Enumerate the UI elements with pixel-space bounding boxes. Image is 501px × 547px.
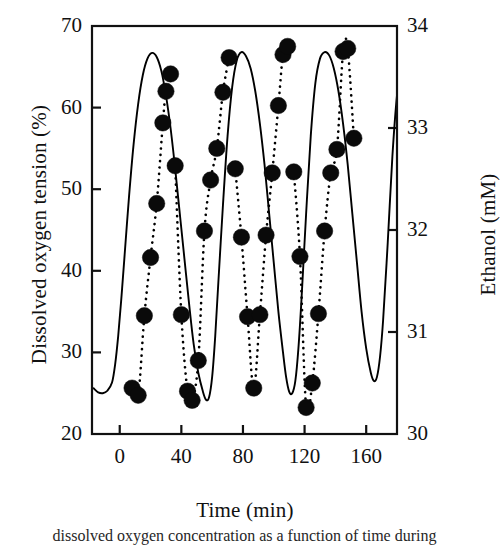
ethanol-marker bbox=[323, 165, 339, 181]
ethanol-marker bbox=[252, 306, 268, 322]
ethanol-marker bbox=[167, 158, 183, 174]
ethanol-marker bbox=[316, 223, 332, 239]
ethanol-marker bbox=[329, 141, 345, 157]
x-tick-label: 80 bbox=[213, 444, 273, 469]
ethanol-marker bbox=[298, 399, 314, 415]
y-tick-label-left: 40 bbox=[26, 258, 82, 283]
x-tick-label: 40 bbox=[151, 444, 211, 469]
ethanol-data-markers bbox=[124, 38, 362, 415]
ethanol-marker bbox=[162, 66, 178, 82]
y-tick-label-right: 33 bbox=[407, 115, 463, 140]
ethanol-marker bbox=[130, 387, 146, 403]
ethanol-marker bbox=[227, 161, 243, 177]
x-axis-title: Time (min) bbox=[92, 498, 398, 523]
ethanol-marker bbox=[136, 307, 152, 323]
y-tick-label-right: 30 bbox=[407, 421, 463, 446]
y-tick-label-left: 50 bbox=[26, 176, 82, 201]
x-tick-label: 120 bbox=[275, 444, 335, 469]
ethanol-marker bbox=[190, 352, 206, 368]
ethanol-marker bbox=[246, 380, 262, 396]
x-tick-label: 0 bbox=[90, 444, 150, 469]
y-tick-label-left: 30 bbox=[26, 339, 82, 364]
ethanol-marker bbox=[270, 97, 286, 113]
ethanol-marker bbox=[196, 223, 212, 239]
y-tick-label-left: 70 bbox=[26, 13, 82, 38]
y-tick-label-left: 20 bbox=[26, 421, 82, 446]
ethanol-marker bbox=[155, 115, 171, 131]
ethanol-marker bbox=[346, 130, 362, 146]
y-tick-label-left: 60 bbox=[26, 95, 82, 120]
ethanol-marker bbox=[158, 83, 174, 99]
y-tick-label-right: 32 bbox=[407, 217, 463, 242]
ethanol-marker bbox=[149, 195, 165, 211]
ethanol-marker bbox=[340, 40, 356, 56]
ethanol-marker bbox=[279, 38, 295, 54]
ethanol-marker bbox=[142, 249, 158, 265]
y-tick-label-right: 34 bbox=[407, 13, 463, 38]
ethanol-marker bbox=[304, 375, 320, 391]
ethanol-marker bbox=[310, 305, 326, 321]
ethanol-marker bbox=[258, 227, 274, 243]
ethanol-marker bbox=[215, 84, 231, 100]
ethanol-marker bbox=[184, 392, 200, 408]
ethanol-marker bbox=[286, 164, 302, 180]
x-tick-label: 160 bbox=[336, 444, 396, 469]
ethanol-marker bbox=[221, 49, 237, 65]
ethanol-marker bbox=[209, 140, 225, 156]
figure-caption: dissolved oxygen concentration as a func… bbox=[0, 527, 489, 547]
ethanol-marker bbox=[233, 229, 249, 245]
ethanol-marker bbox=[173, 306, 189, 322]
ethanol-marker bbox=[202, 172, 218, 188]
ethanol-marker bbox=[292, 248, 308, 264]
y-axis-right-title: Ethanol (mM) bbox=[476, 85, 501, 385]
y-tick-label-right: 31 bbox=[407, 319, 463, 344]
ethanol-marker bbox=[264, 165, 280, 181]
